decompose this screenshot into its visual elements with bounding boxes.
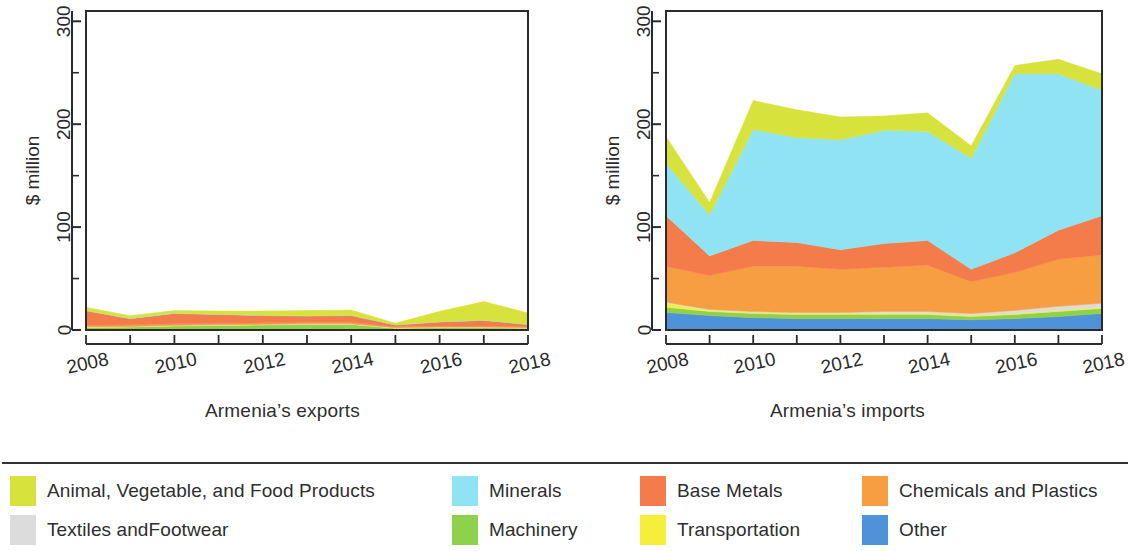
legend: Animal, Vegetable, and Food ProductsMine… xyxy=(0,462,1130,551)
legend-swatch-icon xyxy=(452,476,478,506)
imports-caption: Armenia’s imports xyxy=(565,400,1130,422)
y-axis-title: $ million xyxy=(22,136,43,206)
x-axis-tick-label: 2008 xyxy=(645,348,691,377)
y-axis-tick-label: 200 xyxy=(54,108,75,140)
legend-swatch-icon xyxy=(10,476,36,506)
area-bands xyxy=(86,302,528,330)
legend-item[interactable]: Chemicals and Plastics xyxy=(862,474,1098,508)
legend-label: Machinery xyxy=(489,519,578,541)
x-axis-tick-label: 2008 xyxy=(65,348,111,377)
area-bands xyxy=(666,59,1102,330)
figure-root: 0100200300200820102012201420162018$ mill… xyxy=(0,0,1130,551)
legend-item[interactable]: Textiles andFootwear xyxy=(10,513,229,547)
plot-frame xyxy=(86,11,528,330)
legend-swatch-icon xyxy=(862,515,888,545)
chart-panel-exports: 0100200300200820102012201420162018$ mill… xyxy=(0,0,565,450)
legend-swatch-icon xyxy=(640,515,666,545)
y-axis-tick-label: 300 xyxy=(54,5,75,37)
chart-panel-imports: 0100200300200820102012201420162018$ mill… xyxy=(565,0,1130,450)
legend-row: Textiles andFootwearMachineryTransportat… xyxy=(0,513,1130,551)
legend-label: Minerals xyxy=(489,480,562,502)
x-axis-tick-label: 2010 xyxy=(732,348,778,377)
legend-item[interactable]: Minerals xyxy=(452,474,562,508)
exports-area-chart: 0100200300200820102012201420162018$ mill… xyxy=(0,0,565,400)
x-axis-tick-label: 2012 xyxy=(819,348,865,377)
exports-caption: Armenia’s exports xyxy=(0,400,565,422)
y-axis-tick-label: 0 xyxy=(634,325,655,336)
legend-label: Chemicals and Plastics xyxy=(899,480,1098,502)
legend-swatch-icon xyxy=(640,476,666,506)
legend-label: Transportation xyxy=(677,519,800,541)
legend-item[interactable]: Transportation xyxy=(640,513,800,547)
legend-item[interactable]: Animal, Vegetable, and Food Products xyxy=(10,474,375,508)
legend-swatch-icon xyxy=(452,515,478,545)
legend-swatch-icon xyxy=(10,515,36,545)
legend-label: Base Metals xyxy=(677,480,783,502)
x-axis-tick-label: 2018 xyxy=(507,348,553,377)
y-axis-tick-label: 200 xyxy=(634,108,655,140)
legend-swatch-icon xyxy=(862,476,888,506)
x-axis-tick-label: 2014 xyxy=(906,348,952,377)
x-axis-tick-label: 2016 xyxy=(418,348,464,377)
legend-label: Animal, Vegetable, and Food Products xyxy=(47,480,375,502)
x-axis-tick-label: 2016 xyxy=(993,348,1039,377)
legend-item[interactable]: Base Metals xyxy=(640,474,783,508)
y-axis-title: $ million xyxy=(602,136,623,206)
legend-item[interactable]: Other xyxy=(862,513,947,547)
imports-area-chart: 0100200300200820102012201420162018$ mill… xyxy=(565,0,1130,400)
legend-label: Textiles andFootwear xyxy=(47,519,229,541)
y-axis-tick-label: 100 xyxy=(54,211,75,243)
y-axis-tick-label: 300 xyxy=(634,5,655,37)
legend-divider xyxy=(2,462,1128,464)
legend-label: Other xyxy=(899,519,947,541)
legend-item[interactable]: Machinery xyxy=(452,513,578,547)
y-axis-tick-label: 100 xyxy=(634,211,655,243)
x-axis-tick-label: 2014 xyxy=(330,348,376,377)
y-axis-tick-label: 0 xyxy=(54,325,75,336)
legend-row: Animal, Vegetable, and Food ProductsMine… xyxy=(0,474,1130,512)
x-axis-tick-label: 2010 xyxy=(153,348,199,377)
x-axis-tick-label: 2018 xyxy=(1081,348,1127,377)
x-axis-tick-label: 2012 xyxy=(241,348,287,377)
